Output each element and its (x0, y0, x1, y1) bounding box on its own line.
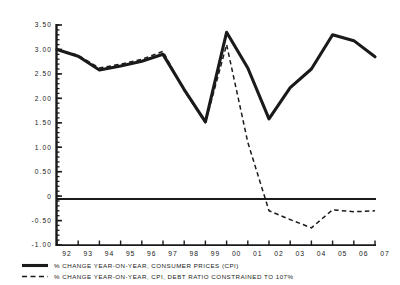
chart-legend: % CHANGE YEAR-ON-YEAR, CONSUMER PRICES (… (22, 262, 294, 280)
x-axis-label: 92 (62, 250, 71, 257)
y-axis-label: 0 (47, 193, 52, 200)
x-axis-label: 03 (296, 250, 305, 257)
x-axis-tick-labels: 92939495969798990001020304050607 (62, 250, 389, 257)
legend-label-solid: % CHANGE YEAR-ON-YEAR, CONSUMER PRICES (… (54, 262, 239, 269)
y-axis-label: -0.50 (31, 217, 52, 224)
y-axis-label: 1.50 (35, 119, 52, 126)
x-axis-label: 97 (168, 250, 177, 257)
legend-label-dashed: % CHANGE YEAR-ON-YEAR, CPI, DEBT RATIO C… (54, 273, 294, 280)
y-axis-label: 1.00 (35, 144, 52, 151)
x-axis-label: 93 (84, 250, 93, 257)
y-axis-label: 2.00 (35, 95, 52, 102)
x-axis-label: 01 (253, 250, 262, 257)
x-axis-label: 05 (338, 250, 347, 257)
x-axis-label: 06 (359, 250, 368, 257)
x-axis-label: 95 (126, 250, 135, 257)
y-axis-label: -1.00 (31, 241, 52, 248)
x-axis-label: 96 (147, 250, 156, 257)
x-axis-label: 02 (274, 250, 283, 257)
x-axis-label: 04 (317, 250, 326, 257)
x-axis-tick-marks (57, 241, 375, 246)
y-axis-tick-labels: 3.503.002.502.001.501.000.500-0.50-1.00 (31, 21, 52, 248)
y-axis-label: 3.50 (35, 21, 52, 28)
x-axis-label: 94 (105, 250, 114, 257)
x-axis-label: 00 (232, 250, 241, 257)
y-axis-label: 2.50 (35, 70, 52, 77)
y-axis-label: 0.50 (35, 168, 52, 175)
x-axis-label: 07 (380, 250, 389, 257)
x-axis-label: 98 (190, 250, 199, 257)
y-axis-label: 3.00 (35, 46, 52, 53)
line-chart: 3.503.002.502.001.501.000.500-0.50-1.00 … (0, 0, 400, 285)
x-axis-label: 99 (211, 250, 220, 257)
chart-container: 3.503.002.502.001.501.000.500-0.50-1.00 … (0, 0, 400, 285)
series-line-solid (57, 32, 375, 121)
